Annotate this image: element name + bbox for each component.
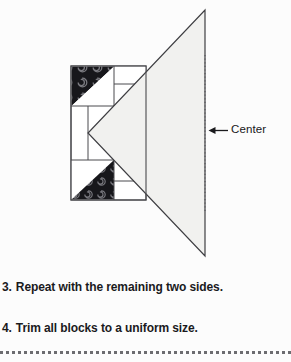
bottom-dashed-rule bbox=[0, 351, 291, 354]
center-label: Center bbox=[231, 123, 266, 135]
instruction-step-3: 3. Repeat with the remaining two sides. bbox=[0, 280, 291, 294]
diagram-svg bbox=[0, 0, 291, 272]
instruction-steps: 3. Repeat with the remaining two sides. … bbox=[0, 280, 291, 335]
dark-triangle-top bbox=[72, 67, 115, 107]
step-4-number: 4. bbox=[2, 321, 12, 335]
diagram-figure: Center bbox=[0, 0, 291, 272]
step-3-number: 3. bbox=[2, 280, 12, 294]
page-root: Center 3. Repeat with the remaining two … bbox=[0, 0, 291, 362]
center-arrow bbox=[209, 127, 229, 134]
step-3-text: Repeat with the remaining two sides. bbox=[16, 280, 223, 294]
dark-triangle-bottom bbox=[72, 160, 115, 200]
instruction-step-4: 4. Trim all blocks to a uniform size. bbox=[0, 321, 291, 335]
step-4-text: Trim all blocks to a uniform size. bbox=[16, 321, 198, 335]
